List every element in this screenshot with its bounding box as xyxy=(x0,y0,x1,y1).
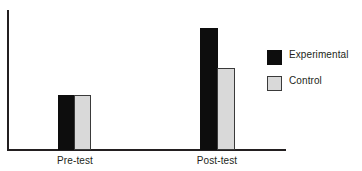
legend: Experimental Control xyxy=(267,48,362,100)
bar-post-test-control xyxy=(217,68,235,150)
legend-item-control: Control xyxy=(267,74,362,100)
bar-chart: Pre-test Post-test Experimental Control xyxy=(0,0,362,171)
y-axis-line xyxy=(7,10,9,151)
legend-swatch-icon-control xyxy=(267,76,282,91)
x-tick-label-post-test: Post-test xyxy=(176,155,258,166)
legend-label-control: Control xyxy=(289,75,322,86)
legend-label-experimental: Experimental xyxy=(289,49,349,60)
bar-post-test-experimental xyxy=(200,28,218,150)
bar-pre-test-control xyxy=(74,95,91,150)
legend-swatch-icon-experimental xyxy=(267,50,282,65)
x-axis-line xyxy=(7,149,286,151)
bar-pre-test-experimental xyxy=(58,95,75,150)
legend-item-experimental: Experimental xyxy=(267,48,362,74)
x-tick-label-pre-test: Pre-test xyxy=(34,155,116,166)
